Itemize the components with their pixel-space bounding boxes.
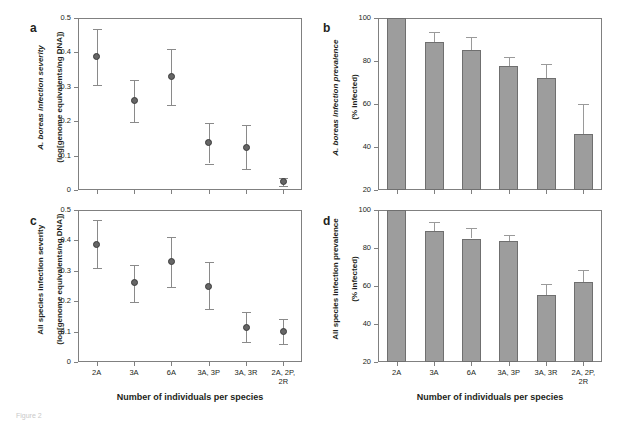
error-bar-cap-top [93, 29, 102, 30]
bar [537, 78, 556, 190]
bar [425, 42, 444, 190]
error-bar [434, 32, 435, 42]
x-tick-mark [434, 362, 435, 366]
x-tick-mark [134, 190, 135, 194]
data-point [280, 328, 287, 335]
bar [387, 18, 406, 190]
bar [574, 282, 593, 362]
x-tick-label: 2A, 2P, 2R [561, 368, 606, 386]
panel-b-y-axis-label-line2: (% infected) [350, 75, 359, 120]
y-tick-label: 100 [338, 206, 371, 214]
data-point [243, 144, 250, 151]
x-tick-mark [283, 190, 284, 194]
y-tick-mark [374, 147, 378, 148]
error-bar-cap-top [578, 104, 589, 105]
x-tick-mark [97, 362, 98, 366]
error-bar-cap-top [429, 32, 440, 33]
y-tick-label: 0.4 [38, 48, 71, 56]
x-tick-mark [546, 190, 547, 194]
error-bar-cap-bottom [130, 122, 139, 123]
panel-c-y-axis-label: All species infection severity (log[geno… [26, 210, 48, 362]
error-bar-cap-top [205, 123, 214, 124]
error-bar-cap-top [429, 222, 440, 223]
error-bar [509, 57, 510, 67]
y-tick-label: 0.5 [38, 206, 71, 214]
y-tick-mark [74, 301, 78, 302]
panel-c-plot-area [78, 210, 302, 362]
x-tick-mark [134, 362, 135, 366]
panel-b: b A. boreas infection prevalence (% infe… [309, 0, 618, 205]
error-bar-cap-bottom [279, 344, 288, 345]
error-bar-cap-top [242, 125, 251, 126]
x-tick-mark [246, 190, 247, 194]
error-bar-cap-bottom [93, 85, 102, 86]
y-tick-mark [374, 190, 378, 191]
y-tick-label: 0 [38, 186, 71, 194]
bar [499, 66, 518, 190]
error-bar-cap-bottom [205, 309, 214, 310]
error-bar-cap-top [130, 80, 139, 81]
x-tick-mark [397, 190, 398, 194]
x-tick-mark [171, 190, 172, 194]
figure-caption: Figure 2 [16, 412, 42, 419]
y-tick-mark [74, 240, 78, 241]
y-tick-mark [374, 104, 378, 105]
x-tick-mark [209, 362, 210, 366]
error-bar-cap-top [93, 220, 102, 221]
x-tick-mark [471, 362, 472, 366]
bar [387, 210, 406, 362]
data-point [205, 283, 212, 290]
error-bar-cap-top [466, 228, 477, 229]
data-point [131, 97, 138, 104]
error-bar-cap-bottom [279, 186, 288, 187]
bar [537, 295, 556, 362]
data-point [168, 258, 175, 265]
x-tick-mark [546, 362, 547, 366]
y-tick-mark [374, 248, 378, 249]
error-bar [471, 228, 472, 238]
error-bar-cap-top [205, 262, 214, 263]
y-tick-mark [74, 18, 78, 19]
y-tick-label: 80 [338, 57, 371, 65]
bar [462, 50, 481, 190]
panel-d: d All species infection prevalence (% in… [309, 205, 618, 405]
data-point [280, 178, 287, 185]
y-tick-label: 100 [338, 14, 371, 22]
error-bar-cap-bottom [205, 164, 214, 165]
error-bar-cap-top [541, 284, 552, 285]
data-point [131, 279, 138, 286]
x-tick-mark [434, 190, 435, 194]
x-tick-mark [471, 190, 472, 194]
error-bar-cap-top [167, 237, 176, 238]
y-tick-label: 0.3 [38, 267, 71, 275]
x-tick-mark [246, 362, 247, 366]
y-tick-mark [374, 362, 378, 363]
figure-root: a A. boreas infection severity (log[geno… [0, 0, 618, 426]
x-tick-mark [171, 362, 172, 366]
y-tick-label: 40 [338, 143, 371, 151]
x-tick-mark [509, 362, 510, 366]
error-bar-cap-top [130, 265, 139, 266]
y-tick-label: 0.5 [38, 14, 71, 22]
x-tick-mark [509, 190, 510, 194]
panel-a-y-axis-label: A. boreas infection severity (log[genome… [26, 18, 48, 190]
y-tick-mark [374, 210, 378, 211]
error-bar-cap-top [466, 37, 477, 38]
y-tick-mark [374, 18, 378, 19]
error-bar-cap-top [504, 57, 515, 58]
bar [462, 239, 481, 363]
y-tick-label: 0.3 [38, 83, 71, 91]
y-tick-label: 60 [338, 282, 371, 290]
error-bar-cap-top [242, 312, 251, 313]
panel-c: c All species infection severity (log[ge… [0, 205, 309, 405]
y-tick-label: 60 [338, 100, 371, 108]
y-tick-label: 0 [38, 358, 71, 366]
y-tick-label: 0.1 [38, 152, 71, 160]
x-tick-mark [583, 190, 584, 194]
y-tick-label: 0.2 [38, 297, 71, 305]
y-tick-mark [374, 61, 378, 62]
error-bar-cap-top [578, 270, 589, 271]
y-tick-label: 20 [338, 186, 371, 194]
error-bar [434, 222, 435, 231]
y-tick-mark [74, 190, 78, 191]
